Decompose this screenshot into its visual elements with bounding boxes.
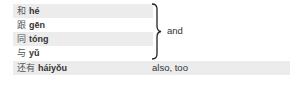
hanzi: 和 — [17, 6, 26, 16]
pinyin: hé — [29, 6, 40, 16]
hanzi: 与 — [17, 48, 26, 58]
word-row-tong: 同tóng — [13, 32, 153, 46]
word-row-he: 和hé — [13, 4, 153, 18]
hanzi: 还有 — [17, 63, 35, 73]
word-row-yu: 与yǔ — [13, 46, 153, 60]
hanzi: 跟 — [17, 20, 26, 30]
word-row-haiyou: 还有háiyǒu also, too — [13, 61, 290, 75]
word-row-gen: 跟gēn — [13, 18, 153, 32]
single-meaning: also, too — [152, 61, 188, 75]
group-meaning: and — [167, 25, 183, 36]
hanzi: 同 — [17, 34, 26, 44]
curly-brace-icon — [150, 3, 164, 60]
pinyin: tóng — [29, 34, 49, 44]
pinyin: gēn — [29, 20, 45, 30]
pinyin: háiyǒu — [38, 63, 67, 73]
pinyin: yǔ — [29, 48, 40, 58]
